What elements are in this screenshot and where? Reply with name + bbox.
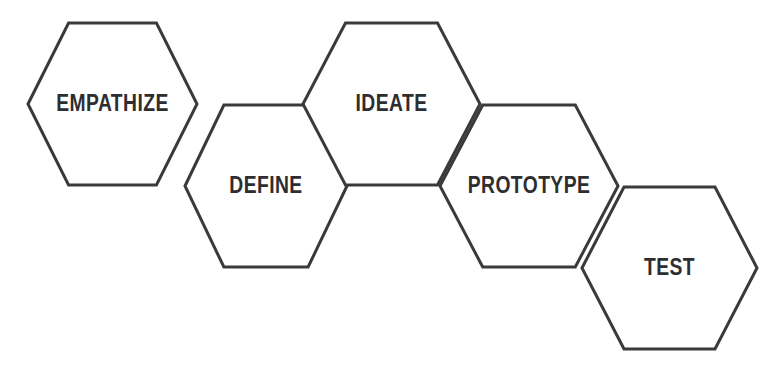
hexagon-label: TEST — [644, 254, 695, 279]
hexagon-chain-canvas: EMPATHIZEDEFINEIDEATEPROTOTYPETEST — [0, 0, 781, 369]
hexagon-label: DEFINE — [229, 172, 302, 197]
hexagon-stage-test[interactable]: TEST — [582, 187, 757, 349]
hexagon-label: PROTOTYPE — [468, 172, 590, 197]
hexagon-stage-empathize[interactable]: EMPATHIZE — [28, 23, 197, 185]
design-thinking-diagram: EMPATHIZEDEFINEIDEATEPROTOTYPETEST — [0, 0, 781, 369]
hexagon-label: IDEATE — [356, 90, 428, 115]
hexagon-label: EMPATHIZE — [56, 90, 168, 115]
